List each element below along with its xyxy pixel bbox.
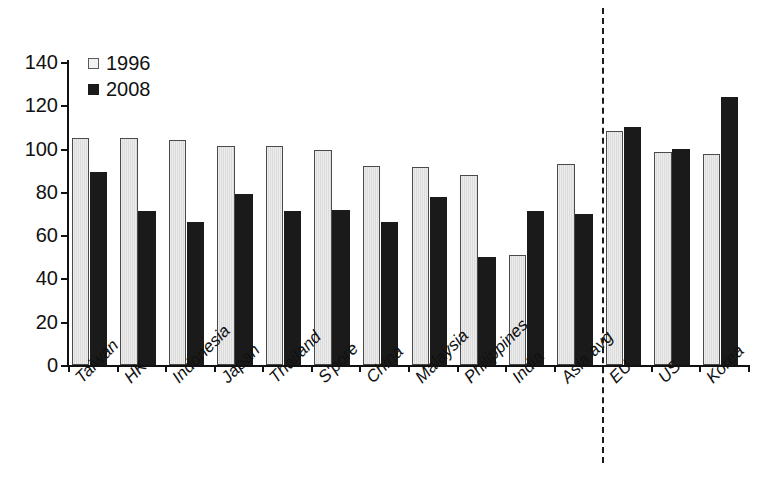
y-tick-label: 100 [25,139,58,159]
x-tick-mark [311,365,313,372]
x-tick-mark [748,365,750,372]
bar-thailand-1996 [266,146,284,365]
x-tick-mark [68,365,70,372]
bar-asia-avg-1996 [557,164,575,365]
bar-us-1996 [654,152,672,365]
y-tick-mark [61,105,68,107]
bar-malaysia-1996 [412,167,430,365]
bar-korea-1996 [703,154,721,365]
x-tick-mark [359,365,361,372]
bar-hk-1996 [120,138,138,365]
asia-vs-rest-divider [602,8,604,463]
y-tick-mark [61,235,68,237]
x-tick-mark [699,365,701,372]
y-tick-mark [61,365,68,367]
bar-eu-1996 [606,131,624,365]
x-tick-mark [262,365,264,372]
y-tick-label: 120 [25,95,58,115]
bar-india-2008 [527,211,545,365]
bar-us-2008 [672,149,690,365]
y-tick-label: 40 [36,268,58,288]
bar-china-1996 [363,166,381,365]
bar-indonesia-1996 [169,140,187,365]
bar-eu-2008 [624,127,642,365]
y-tick-mark [61,322,68,324]
x-tick-mark [117,365,119,372]
y-tick-label: 60 [36,225,58,245]
x-tick-mark [408,365,410,372]
bars-layer [68,62,748,365]
bar-japan-2008 [235,194,253,365]
x-tick-mark [165,365,167,372]
x-tick-mark [505,365,507,372]
bar-taiwan-1996 [72,138,90,365]
bar-hk-2008 [138,211,156,365]
bar-taiwan-2008 [90,172,108,365]
x-tick-mark [651,365,653,372]
bar-korea-2008 [721,97,739,365]
x-tick-mark [554,365,556,372]
x-tick-mark [457,365,459,372]
x-tick-mark [214,365,216,372]
y-tick-label: 80 [36,182,58,202]
y-tick-mark [61,192,68,194]
bar-chart: 1996 2008 020406080100120140 TaiwanHKInd… [0,0,768,495]
y-tick-mark [61,62,68,64]
y-tick-mark [61,149,68,151]
y-tick-mark [61,278,68,280]
y-tick-label: 0 [47,355,58,375]
y-tick-label: 20 [36,312,58,332]
y-tick-label: 140 [25,52,58,72]
